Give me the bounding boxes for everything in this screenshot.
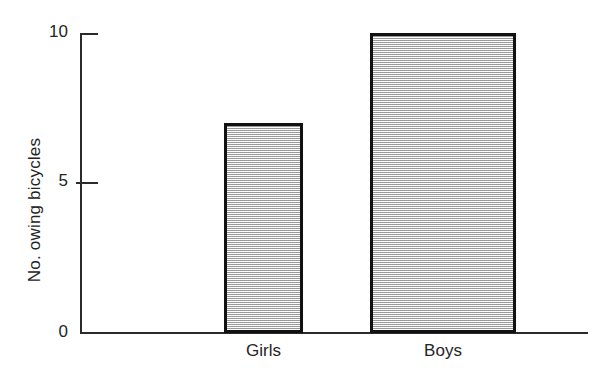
bar-boys xyxy=(370,33,516,333)
y-tick-label-10: 10 xyxy=(8,22,68,42)
bar-chart: No. owing bicycles 10 5 0 Girls Boys xyxy=(0,0,615,374)
x-category-label-girls: Girls xyxy=(224,341,303,361)
x-category-label-boys: Boys xyxy=(370,341,516,361)
y-tick-mark-10 xyxy=(81,33,98,35)
y-tick-mark-5 xyxy=(76,182,98,184)
bar-girls xyxy=(224,123,303,333)
y-axis-title: No. owing bicycles xyxy=(25,80,45,340)
y-tick-label-0: 0 xyxy=(8,322,68,342)
y-tick-label-5: 5 xyxy=(8,171,68,191)
